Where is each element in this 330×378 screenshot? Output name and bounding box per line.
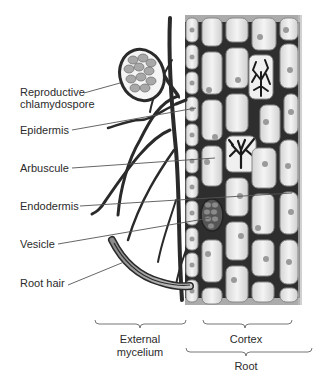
root-tissue [180, 12, 305, 308]
label-cortex: Cortex [216, 333, 276, 346]
label-vesicle: Vesicle [20, 238, 55, 251]
label-epidermis: Epidermis [20, 124, 69, 137]
arbuscule-upper [249, 55, 273, 99]
label-endodermis: Endodermis [20, 200, 79, 213]
label-external-mycelium-line1: External [110, 333, 170, 346]
label-reproductive-chlamydospore-line2: chlamydospore [20, 98, 95, 111]
label-root-hair: Root hair [20, 277, 65, 290]
mycorrhiza-diagram [0, 0, 330, 378]
cortex-cells-col1 [202, 18, 222, 304]
label-root: Root [216, 360, 276, 373]
external-mycelium-bracket [95, 320, 186, 328]
root-bracket [186, 348, 312, 356]
label-arbuscule: Arbuscule [20, 162, 69, 175]
vesicle [201, 199, 223, 231]
label-external-mycelium-line2: mycelium [110, 346, 170, 359]
cortex-bracket [203, 320, 292, 328]
cortex-cells-col4 [280, 18, 298, 302]
